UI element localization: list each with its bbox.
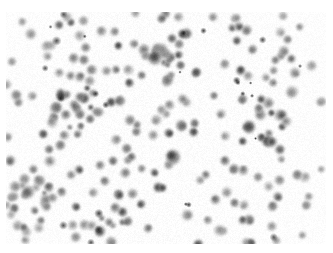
cell-field-canvas — [6, 12, 326, 244]
microscopy-viewport — [0, 0, 333, 253]
microscopy-field — [6, 12, 326, 244]
